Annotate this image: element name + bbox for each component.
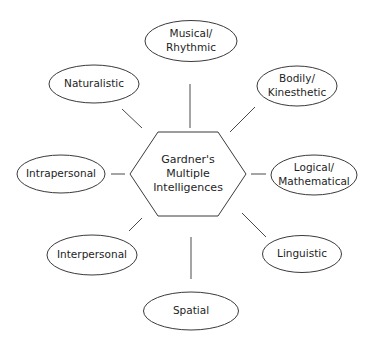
center-label-line-3: Intelligences	[153, 181, 223, 194]
label-logical-line-2: Mathematical	[278, 175, 350, 187]
node-interpersonal: Interpersonal	[47, 235, 137, 275]
label-intrapersonal: Intrapersonal	[26, 167, 96, 179]
center-label-line-2: Multiple	[166, 167, 210, 180]
connector-bodily	[230, 107, 255, 132]
node-linguistic: Linguistic	[263, 236, 342, 273]
node-bodily: Bodily/ Kinesthetic	[257, 66, 337, 106]
label-linguistic: Linguistic	[277, 247, 327, 259]
label-interpersonal: Interpersonal	[57, 248, 127, 260]
label-naturalistic: Naturalistic	[64, 77, 124, 89]
connector-naturalistic	[122, 109, 142, 128]
center-label-line-1: Gardner's	[161, 153, 215, 166]
node-intrapersonal: Intrapersonal	[17, 155, 105, 193]
node-musical: Musical/ Rhythmic	[145, 21, 237, 62]
node-naturalistic: Naturalistic	[49, 65, 139, 103]
label-bodily-line-1: Bodily/	[279, 72, 315, 84]
label-bodily-line-2: Kinesthetic	[268, 86, 327, 98]
connector-interpersonal	[129, 218, 142, 231]
label-musical-line-1: Musical/	[170, 27, 213, 39]
label-logical-line-1: Logical/	[294, 161, 335, 173]
node-logical: Logical/ Mathematical	[271, 155, 357, 195]
label-spatial: Spatial	[173, 304, 209, 316]
connector-linguistic	[242, 213, 266, 237]
multiple-intelligences-diagram: Gardner's Multiple Intelligences Musical…	[0, 0, 373, 348]
label-musical-line-2: Rhythmic	[166, 41, 216, 53]
center-node: Gardner's Multiple Intelligences	[130, 132, 246, 216]
node-spatial: Spatial	[144, 292, 239, 330]
